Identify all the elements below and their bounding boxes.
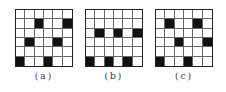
empty-cell xyxy=(203,10,212,19)
empty-cell xyxy=(123,47,132,56)
empty-cell xyxy=(35,10,44,19)
filled-cell xyxy=(123,57,132,66)
empty-cell xyxy=(193,10,202,19)
panel-c: (c) xyxy=(155,9,213,81)
filled-cell xyxy=(175,38,184,47)
label-c: (c) xyxy=(155,71,213,81)
empty-cell xyxy=(95,19,104,28)
filled-cell xyxy=(193,19,202,28)
empty-cell xyxy=(44,29,53,38)
empty-cell xyxy=(105,29,114,38)
empty-cell xyxy=(156,19,165,28)
empty-cell xyxy=(133,57,142,66)
empty-cell xyxy=(25,19,34,28)
filled-cell xyxy=(184,57,193,66)
empty-cell xyxy=(25,57,34,66)
empty-cell xyxy=(95,38,104,47)
filled-cell xyxy=(25,38,34,47)
empty-cell xyxy=(184,38,193,47)
empty-cell xyxy=(25,29,34,38)
label-b: (b) xyxy=(85,71,143,81)
filled-cell xyxy=(35,19,44,28)
empty-cell xyxy=(165,38,174,47)
empty-cell xyxy=(105,19,114,28)
filled-cell xyxy=(63,19,72,28)
empty-cell xyxy=(114,47,123,56)
empty-cell xyxy=(203,57,212,66)
empty-cell xyxy=(184,47,193,56)
empty-cell xyxy=(105,38,114,47)
filled-cell xyxy=(156,57,165,66)
empty-cell xyxy=(133,47,142,56)
filled-cell xyxy=(95,29,104,38)
empty-cell xyxy=(35,57,44,66)
empty-cell xyxy=(63,29,72,38)
empty-cell xyxy=(86,19,95,28)
empty-cell xyxy=(123,38,132,47)
empty-cell xyxy=(123,29,132,38)
empty-cell xyxy=(44,10,53,19)
empty-cell xyxy=(133,38,142,47)
empty-cell xyxy=(16,38,25,47)
empty-cell xyxy=(156,29,165,38)
empty-cell xyxy=(53,47,62,56)
empty-cell xyxy=(114,19,123,28)
filled-cell xyxy=(165,19,174,28)
empty-cell xyxy=(63,47,72,56)
empty-cell xyxy=(193,47,202,56)
filled-cell xyxy=(86,57,95,66)
empty-cell xyxy=(16,10,25,19)
empty-cell xyxy=(35,38,44,47)
empty-cell xyxy=(165,29,174,38)
empty-cell xyxy=(86,47,95,56)
empty-cell xyxy=(203,29,212,38)
empty-cell xyxy=(53,57,62,66)
empty-cell xyxy=(175,47,184,56)
empty-cell xyxy=(175,29,184,38)
empty-cell xyxy=(184,19,193,28)
empty-cell xyxy=(95,10,104,19)
empty-cell xyxy=(114,10,123,19)
empty-cell xyxy=(63,10,72,19)
empty-cell xyxy=(25,47,34,56)
panel-b: (b) xyxy=(85,9,143,81)
empty-cell xyxy=(203,19,212,28)
empty-cell xyxy=(53,29,62,38)
empty-cell xyxy=(95,47,104,56)
label-a: (a) xyxy=(15,71,73,81)
grid-b xyxy=(85,9,143,67)
empty-cell xyxy=(53,19,62,28)
filled-cell xyxy=(16,57,25,66)
empty-cell xyxy=(44,19,53,28)
empty-cell xyxy=(63,38,72,47)
empty-cell xyxy=(114,38,123,47)
empty-cell xyxy=(133,10,142,19)
panel-a: (a) xyxy=(15,9,73,81)
empty-cell xyxy=(86,29,95,38)
empty-cell xyxy=(193,29,202,38)
empty-cell xyxy=(105,10,114,19)
empty-cell xyxy=(123,10,132,19)
empty-cell xyxy=(25,10,34,19)
empty-cell xyxy=(53,10,62,19)
filled-cell xyxy=(105,57,114,66)
empty-cell xyxy=(35,47,44,56)
empty-cell xyxy=(86,10,95,19)
empty-cell xyxy=(156,10,165,19)
empty-cell xyxy=(133,19,142,28)
empty-cell xyxy=(114,57,123,66)
empty-cell xyxy=(63,57,72,66)
empty-cell xyxy=(16,47,25,56)
filled-cell xyxy=(203,38,212,47)
grid-a xyxy=(15,9,73,67)
empty-cell xyxy=(44,38,53,47)
filled-cell xyxy=(53,38,62,47)
empty-cell xyxy=(35,29,44,38)
empty-cell xyxy=(105,47,114,56)
filled-cell xyxy=(133,29,142,38)
empty-cell xyxy=(193,38,202,47)
grid-c xyxy=(155,9,213,67)
empty-cell xyxy=(165,57,174,66)
empty-cell xyxy=(203,47,212,56)
empty-cell xyxy=(165,10,174,19)
